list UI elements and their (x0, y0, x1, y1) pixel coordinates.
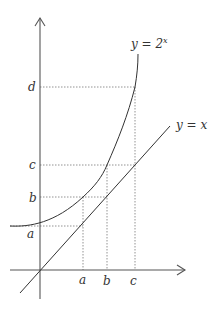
x-tick-a: a (79, 273, 86, 287)
y-tick-a: a (27, 227, 34, 241)
y-tick-d: d (28, 80, 36, 94)
x-tick-c: c (130, 274, 137, 288)
line-label: y = x (175, 118, 207, 132)
x-tick-b: b (103, 274, 111, 288)
dotted-guides (10, 87, 135, 270)
exponential-vs-linear-diagram: y = 2x y = x d c b a a b c (0, 0, 216, 318)
curve-label: y = 2x (130, 36, 168, 51)
y-tick-c: c (29, 158, 36, 172)
y-tick-b: b (29, 191, 37, 205)
line-y-equals-x (20, 126, 170, 293)
